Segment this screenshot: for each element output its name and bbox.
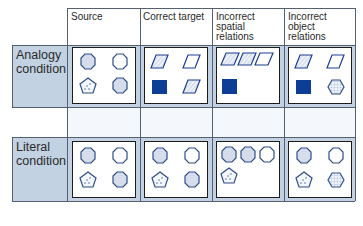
octagon-dotted-icon xyxy=(113,78,127,93)
right-border xyxy=(355,8,356,201)
parallelogram-striped-icon xyxy=(221,53,239,65)
row-label-line: condition xyxy=(16,154,66,168)
col-divider-2 xyxy=(140,8,141,201)
left-border-analogy xyxy=(12,45,13,107)
row-label-line: Literal xyxy=(16,140,66,154)
hexagon-grid-icon xyxy=(328,80,344,94)
parallelogram-striped-icon xyxy=(238,53,256,65)
octagon-dotted-icon xyxy=(113,172,127,187)
parallelogram-empty-icon xyxy=(255,53,273,65)
col-divider-1 xyxy=(67,8,68,201)
pentagon-dots-icon xyxy=(221,168,237,183)
analogy-incorrect-object-panel xyxy=(288,47,352,104)
col-divider-4 xyxy=(284,8,285,201)
row-label-line: condition xyxy=(16,62,66,76)
octagon-dotted-icon xyxy=(222,147,236,162)
row-gap xyxy=(67,107,355,137)
analogy-source-panel xyxy=(72,47,136,104)
pentagon-dots-icon xyxy=(80,78,96,93)
literal-top-line xyxy=(12,137,355,138)
row-label-line: Analogy xyxy=(16,48,66,62)
octagon-dotted-icon xyxy=(153,148,167,163)
header-top-line xyxy=(67,8,355,9)
parallelogram-empty-icon xyxy=(183,55,200,68)
analogy-incorrect-spatial-panel xyxy=(216,47,280,104)
literal-source-panel xyxy=(72,141,136,198)
column-header-label: Source xyxy=(71,12,103,22)
row-label-literal: Literal condition xyxy=(16,140,66,168)
octagon-empty-icon xyxy=(329,148,343,163)
octagon-empty-icon xyxy=(260,147,274,162)
literal-incorrect-object-panel xyxy=(288,141,352,198)
header-bottom-line xyxy=(12,45,355,46)
analogy-correct-target-panel xyxy=(144,47,208,104)
row-label-analogy: Analogy condition xyxy=(16,48,66,76)
octagon-dotted-icon xyxy=(297,148,311,163)
octagon-dotted-icon xyxy=(81,148,95,163)
parallelogram-empty-icon xyxy=(327,55,344,68)
square-filled-icon xyxy=(222,79,237,94)
pentagon-dots-icon xyxy=(296,172,312,187)
parallelogram-striped-icon xyxy=(183,80,200,93)
column-header-label: Correct target xyxy=(143,12,204,22)
literal-correct-target-panel xyxy=(144,141,208,198)
column-header-source: Source xyxy=(71,12,103,22)
column-header-incorrect-object: Incorrect object relations xyxy=(288,12,327,42)
octagon-empty-icon xyxy=(113,148,127,163)
square-filled-icon xyxy=(296,80,311,94)
left-border-literal xyxy=(12,137,13,201)
octagon-dotted-icon xyxy=(241,147,255,162)
pentagon-dots-icon xyxy=(80,172,96,187)
pentagon-dots-icon xyxy=(152,172,168,187)
literal-incorrect-spatial-panel xyxy=(216,141,280,198)
analogy-bottom-line xyxy=(12,107,355,108)
column-header-line: relations xyxy=(216,32,255,42)
octagon-empty-icon xyxy=(113,54,127,69)
column-header-correct-target: Correct target xyxy=(143,12,204,22)
parallelogram-striped-icon xyxy=(295,55,312,68)
column-header-line: relations xyxy=(288,32,327,42)
octagon-empty-icon xyxy=(185,148,199,163)
octagon-dotted-icon xyxy=(81,54,95,69)
column-header-incorrect-spatial: Incorrect spatial relations xyxy=(216,12,255,42)
square-filled-icon xyxy=(152,80,167,94)
hexagon-grid-icon xyxy=(328,173,344,187)
octagon-dotted-icon xyxy=(185,172,199,187)
parallelogram-striped-icon xyxy=(151,55,168,68)
col-divider-3 xyxy=(212,8,213,201)
literal-bottom-line xyxy=(12,201,355,202)
